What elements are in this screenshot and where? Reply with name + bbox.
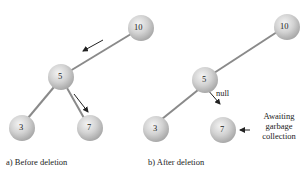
node-label: 5: [58, 71, 62, 81]
note-line: Awaiting: [254, 111, 304, 121]
panel-a-edges: [28, 34, 131, 118]
note-line: garbage: [254, 121, 304, 131]
garbage-collection-note: Awaiting garbage collection: [254, 111, 304, 141]
panel-b-edges: [162, 32, 277, 119]
node-label: 3: [153, 123, 157, 133]
node-label: 10: [134, 22, 143, 32]
note-line: collection: [254, 131, 304, 141]
node-label: 10: [280, 21, 289, 31]
traverse-arrow-left: [83, 40, 103, 51]
caption-after: b) After deletion: [148, 157, 204, 167]
node-label: 3: [19, 122, 23, 132]
node-label: 7: [220, 124, 224, 134]
bst-deletion-diagram: [0, 0, 307, 176]
panel-a-nodes: [9, 15, 154, 141]
caption-before: a) Before deletion: [6, 157, 67, 167]
null-label: null: [216, 88, 229, 98]
node-label: 5: [202, 74, 206, 84]
node-label: 7: [87, 122, 91, 132]
